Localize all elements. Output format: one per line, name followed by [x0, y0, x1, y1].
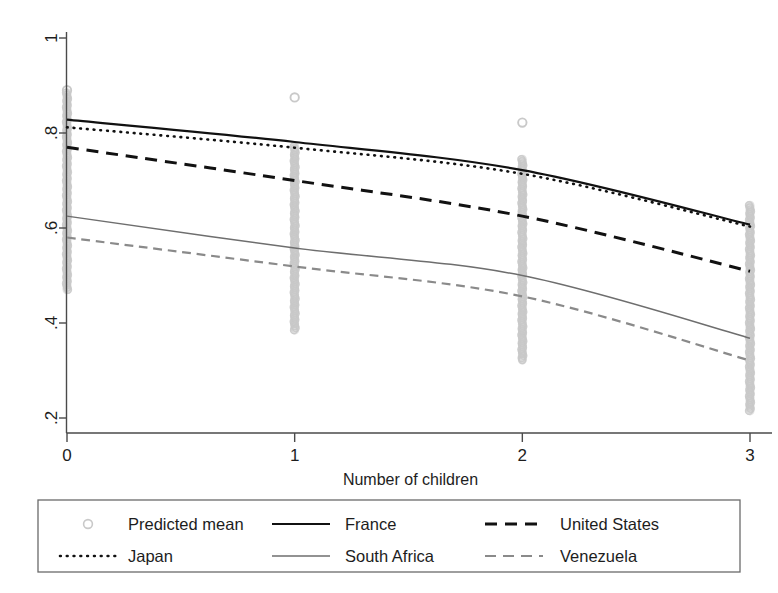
y-tick-label: .2 [42, 411, 61, 425]
legend-item-label: Venezuela [560, 547, 638, 565]
legend-item-label: Predicted mean [128, 515, 244, 533]
scatter-column [290, 93, 299, 333]
y-tick-label: .6 [42, 221, 61, 235]
axis-layer [59, 32, 772, 442]
x-axis-title: Number of children [343, 471, 478, 488]
legend-item-label: France [345, 515, 396, 533]
scatter-column [518, 118, 527, 363]
x-tick-label: 0 [62, 446, 71, 465]
legend-box: Predicted meanFranceUnited StatesJapanSo… [38, 500, 740, 572]
legend-item-label: United States [560, 515, 659, 533]
legend-item-label: Japan [128, 547, 173, 565]
series-line [67, 147, 750, 271]
chart-container: .2.4.6.810123Number of children Predicte… [0, 0, 778, 593]
series-line [67, 120, 750, 225]
axis-labels-layer: .2.4.6.810123Number of children [42, 33, 755, 488]
x-tick-label: 1 [290, 446, 299, 465]
x-tick-label: 2 [518, 446, 527, 465]
scatter-column [746, 202, 755, 414]
x-tick-label: 3 [745, 446, 754, 465]
series-lines-layer [67, 120, 750, 361]
series-line [67, 216, 750, 338]
predicted-mean-line-chart: .2.4.6.810123Number of children Predicte… [0, 0, 778, 593]
legend-item-label: South Africa [345, 547, 435, 565]
y-tick-label: 1 [42, 33, 61, 42]
y-tick-label: .8 [42, 126, 61, 140]
y-tick-label: .4 [42, 316, 61, 330]
series-line [67, 238, 750, 361]
series-line [67, 127, 750, 226]
